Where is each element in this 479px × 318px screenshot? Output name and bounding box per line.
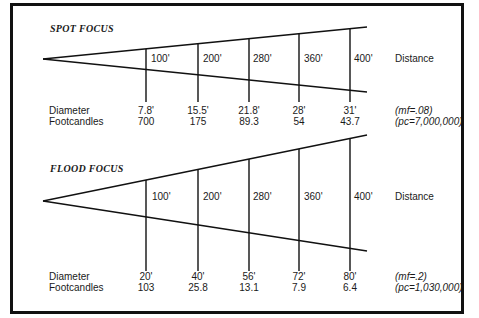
flood-pc: (pc=1,030,000) <box>395 282 463 293</box>
spot-footcandles-value: 700 <box>126 116 166 127</box>
flood-diameter-value: 80' <box>330 271 370 282</box>
flood-cone-bottom-edge <box>43 201 367 251</box>
flood-footcandles-value: 6.4 <box>330 282 370 293</box>
flood-footcandles-value: 103 <box>126 282 166 293</box>
spot-distance-label: Distance <box>395 53 434 64</box>
spot-distance-100: 100' <box>151 53 170 64</box>
spot-diameter-value: 28' <box>279 105 319 116</box>
spot-footcandles-value: 175 <box>178 116 218 127</box>
flood-footcandles-label: Footcandles <box>49 282 103 293</box>
flood-distance-400: 400' <box>354 191 373 202</box>
spot-distance-400: 400' <box>354 53 373 64</box>
flood-diameter-value: 56' <box>229 271 269 282</box>
spot-diameter-value: 21.8' <box>229 105 269 116</box>
spot-footcandles-label: Footcandles <box>49 116 103 127</box>
flood-footcandles-value: 13.1 <box>229 282 269 293</box>
spot-footcandles-value: 54 <box>279 116 319 127</box>
flood-distance-label: Distance <box>395 191 434 202</box>
flood-diameter-value: 40' <box>178 271 218 282</box>
spot-focus-title: SPOT FOCUS <box>50 23 114 34</box>
spot-distance-280: 280' <box>253 53 272 64</box>
spot-pc: (pc=7,000,000) <box>395 116 463 127</box>
flood-distance-100: 100' <box>152 191 171 202</box>
flood-footcandles-value: 7.9 <box>279 282 319 293</box>
flood-distance-280: 280' <box>253 191 272 202</box>
spot-footcandles-value: 43.7 <box>330 116 370 127</box>
spot-diameter-label: Diameter <box>49 105 90 116</box>
flood-distance-360: 360' <box>304 191 323 202</box>
flood-focus-title: FLOOD FOCUS <box>50 163 124 174</box>
spot-distance-360: 360' <box>304 53 323 64</box>
spot-distance-200: 200' <box>203 53 222 64</box>
spot-diameter-value: 7.8' <box>126 105 166 116</box>
flood-diameter-label: Diameter <box>49 271 90 282</box>
spot-diameter-value: 31' <box>330 105 370 116</box>
flood-distance-200: 200' <box>203 191 222 202</box>
flood-diameter-value: 20' <box>126 271 166 282</box>
spot-footcandles-value: 89.3 <box>229 116 269 127</box>
spot-diameter-value: 15.5' <box>178 105 218 116</box>
flood-diameter-value: 72' <box>279 271 319 282</box>
flood-mf: (mf=.2) <box>395 271 427 282</box>
flood-footcandles-value: 25.8 <box>178 282 218 293</box>
spot-mf: (mf=.08) <box>395 105 433 116</box>
